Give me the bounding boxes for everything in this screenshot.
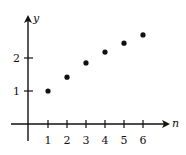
data-point [45, 88, 50, 93]
x-tick-label: 3 [83, 134, 90, 147]
scatter-chart: n y 123456 12 [0, 0, 186, 155]
x-tick-label: 4 [102, 134, 109, 147]
y-ticks: 12 [13, 52, 33, 98]
data-point [121, 41, 126, 46]
data-points [45, 32, 145, 93]
data-point [64, 75, 69, 80]
data-point [102, 49, 107, 54]
x-tick-label: 5 [121, 134, 128, 147]
x-tick-label: 6 [140, 134, 147, 147]
data-point [140, 32, 145, 37]
x-tick-label: 2 [64, 134, 71, 147]
y-axis-label: y [32, 12, 40, 25]
data-point [83, 60, 88, 65]
y-tick-label: 1 [13, 85, 20, 98]
x-axis-label: n [172, 117, 179, 130]
x-tick-label: 1 [45, 134, 52, 147]
y-tick-label: 2 [13, 52, 20, 65]
